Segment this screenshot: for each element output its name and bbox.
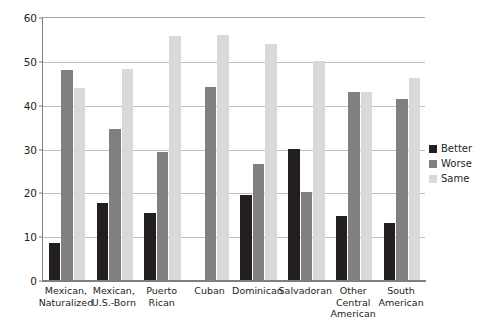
bar-same xyxy=(122,69,134,280)
bar-same xyxy=(313,61,325,280)
bar-better xyxy=(49,243,61,280)
bar-same xyxy=(74,88,86,280)
bar-group xyxy=(43,18,91,280)
legend-label: Same xyxy=(441,174,469,184)
bar-chart-figure: 0102030405060 BetterWorseSame Mexican,Na… xyxy=(0,0,483,328)
legend-swatch-worse xyxy=(429,160,437,168)
legend-label: Worse xyxy=(441,159,472,169)
y-axis-tick-label: 60 xyxy=(24,13,37,24)
bar-better xyxy=(240,195,252,280)
bar-worse xyxy=(348,92,360,280)
bar-same xyxy=(409,78,421,281)
bar-group xyxy=(235,18,283,280)
bar-same xyxy=(169,36,181,280)
bar-same xyxy=(265,44,277,280)
bar-group xyxy=(187,18,235,280)
x-axis-category-label-line: American xyxy=(323,308,383,320)
bar-worse xyxy=(301,192,313,280)
bar-worse xyxy=(157,152,169,280)
axis-baseline xyxy=(42,280,426,282)
bar-group xyxy=(91,18,139,280)
y-axis-tick-label: 10 xyxy=(24,232,37,243)
x-axis-category-label-line: Rican xyxy=(132,297,192,309)
y-axis-tick-label: 50 xyxy=(24,57,37,68)
x-axis-category-label-line: American xyxy=(371,297,431,309)
x-axis-category-label-line: South xyxy=(371,285,431,297)
bar-worse xyxy=(396,99,408,280)
bar-worse xyxy=(205,87,217,280)
bar-worse xyxy=(109,129,121,280)
bar-worse xyxy=(61,70,73,280)
plot-area: 0102030405060 xyxy=(42,17,425,280)
bar-same xyxy=(217,35,229,280)
bar-group xyxy=(139,18,187,280)
y-axis-tick-label: 40 xyxy=(24,100,37,111)
legend-swatch-same xyxy=(429,175,437,183)
legend-label: Better xyxy=(441,144,472,154)
bar-group xyxy=(330,18,378,280)
bar-better xyxy=(144,213,156,280)
legend-item-same[interactable]: Same xyxy=(429,171,472,186)
x-axis-category-label: SouthAmerican xyxy=(371,285,431,308)
y-axis-tick-label: 30 xyxy=(24,144,37,155)
legend-item-worse[interactable]: Worse xyxy=(429,156,472,171)
bar-same xyxy=(361,92,373,280)
bar-better xyxy=(288,149,300,281)
bar-group xyxy=(282,18,330,280)
bar-better xyxy=(336,216,348,280)
y-axis-tick-label: 20 xyxy=(24,188,37,199)
chart-legend: BetterWorseSame xyxy=(429,141,472,186)
bar-group xyxy=(378,18,426,280)
legend-item-better[interactable]: Better xyxy=(429,141,472,156)
legend-swatch-better xyxy=(429,145,437,153)
bar-worse xyxy=(253,164,265,280)
bar-better xyxy=(384,223,396,280)
bar-better xyxy=(97,203,109,280)
